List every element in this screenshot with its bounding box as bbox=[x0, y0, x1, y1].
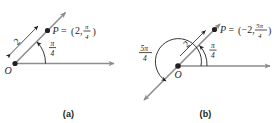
panel-a: O 2 π 4 P = ( 2, π 4 ) (a) bbox=[0, 0, 137, 123]
point-label-b-radius: −2, bbox=[242, 24, 255, 35]
polar-coordinates-figure: O 2 π 4 P = ( 2, π 4 ) (a) bbox=[0, 0, 274, 123]
point-label-b-theta-denominator: 4 bbox=[258, 32, 262, 40]
panel-b-caption: (b) bbox=[137, 109, 274, 119]
point-p-dot-b bbox=[212, 27, 217, 32]
origin-label-b: O bbox=[175, 69, 182, 80]
point-label-a-close-paren: ) bbox=[93, 26, 96, 38]
point-label-a-equals: = bbox=[61, 25, 67, 36]
point-p-dot-a bbox=[45, 28, 50, 33]
reflex-angle-label-b: 5π 4 bbox=[139, 44, 152, 63]
angle-label-a-numerator: π bbox=[51, 39, 55, 48]
terminal-ray-a bbox=[15, 13, 66, 64]
angle-label-a-denominator: 4 bbox=[51, 49, 55, 58]
panel-b: O 2 π 4 5π 4 P = ( −2, 5π bbox=[137, 0, 274, 123]
point-label-b-equals: = bbox=[229, 24, 235, 35]
point-label-b: P = ( −2, 5π 4 ) bbox=[219, 22, 271, 40]
reflex-angle-label-b-denominator: 4 bbox=[143, 54, 147, 63]
panel-a-caption: (a) bbox=[0, 109, 137, 119]
point-label-b-name: P bbox=[219, 24, 226, 35]
radius-label-a: 2 bbox=[12, 36, 23, 47]
terminal-ray-b bbox=[144, 66, 178, 100]
panel-a-diagram: O 2 π 4 P = ( 2, π 4 ) bbox=[0, 0, 137, 106]
point-label-a-name: P bbox=[52, 25, 59, 36]
angle-arc-a bbox=[37, 42, 46, 64]
point-label-b-theta-numerator: 5π bbox=[256, 22, 264, 30]
point-label-a-theta-denominator: 4 bbox=[85, 33, 89, 41]
point-label-b-close-paren: ) bbox=[268, 25, 271, 37]
angle-label-b: π 4 bbox=[210, 41, 217, 60]
origin-dot-a bbox=[12, 61, 17, 66]
angle-label-a: π 4 bbox=[49, 39, 56, 58]
angle-label-b-denominator: 4 bbox=[211, 51, 215, 60]
angle-label-b-numerator: π bbox=[211, 41, 215, 50]
point-label-a-theta-numerator: π bbox=[85, 23, 89, 31]
point-label-a: P = ( 2, π 4 ) bbox=[52, 23, 96, 41]
origin-label-a: O bbox=[5, 65, 12, 76]
panel-b-diagram: O 2 π 4 5π 4 P = ( −2, 5π bbox=[137, 0, 274, 106]
point-label-a-radius: 2, bbox=[75, 25, 83, 36]
reflex-angle-label-b-numerator: 5π bbox=[141, 44, 149, 53]
